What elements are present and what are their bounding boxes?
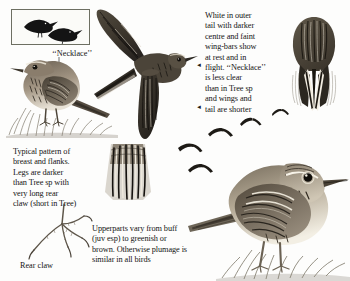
tail-line-arrow-icon: ◄ xyxy=(196,104,202,110)
caption-breast-and-legs: Typical pattern of breast and flanks. Le… xyxy=(13,147,113,209)
silhouette-inset-box xyxy=(11,9,90,45)
pipit-silhouette-right xyxy=(48,28,83,44)
illustration-plate: ‘‘Necklace’’ xyxy=(0,0,350,281)
caption-upperparts: Upperparts vary from buff (juv esp) to g… xyxy=(92,224,214,266)
rear-claw-label: Rear claw xyxy=(20,262,53,271)
caption-tail-and-wingbars: White in outer tail with darker centre a… xyxy=(205,11,297,115)
flight-line-arrow-icon: ◄ xyxy=(196,62,202,68)
rear-claw-foot-diagram xyxy=(24,202,96,260)
silhouette-inset-svg xyxy=(12,10,89,44)
